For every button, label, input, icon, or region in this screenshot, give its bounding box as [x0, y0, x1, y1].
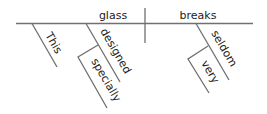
subject-word: glass	[99, 9, 128, 22]
sentence-diagram: glass breaks This designed specially sel…	[0, 0, 267, 114]
modifier-word-this: This	[42, 29, 65, 56]
predicate-word: breaks	[180, 9, 217, 22]
